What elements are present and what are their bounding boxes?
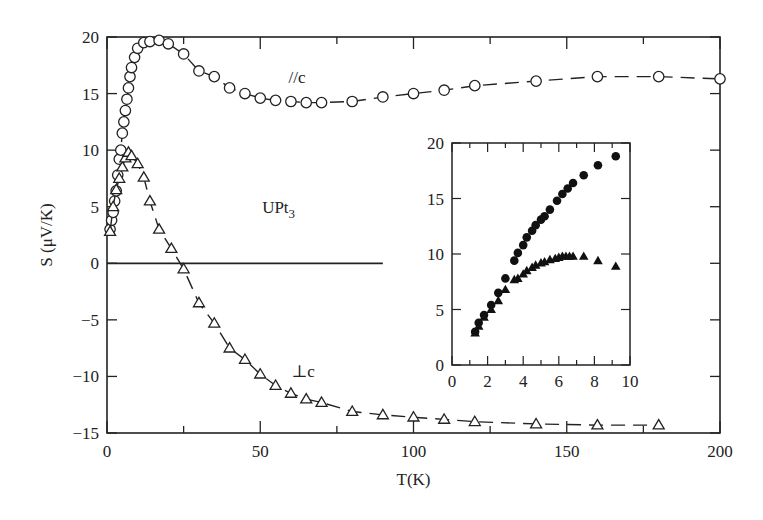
data-point xyxy=(594,161,603,170)
data-point xyxy=(316,97,326,107)
y-tick-label: −15 xyxy=(72,424,99,443)
data-point xyxy=(209,71,219,81)
data-point xyxy=(178,263,189,272)
inset-x-tick-label: 2 xyxy=(483,372,492,391)
inset-x-tick-label: 10 xyxy=(622,372,639,391)
data-point xyxy=(470,80,480,90)
data-point xyxy=(514,249,523,258)
data-point xyxy=(569,179,578,188)
x-tick-label: 200 xyxy=(707,442,733,461)
inset-y-tick-label: 15 xyxy=(427,190,444,209)
data-point xyxy=(270,95,280,105)
data-point xyxy=(301,394,312,403)
inset-y-tick-label: 5 xyxy=(436,301,445,320)
y-tick-label: 5 xyxy=(91,198,100,217)
data-point xyxy=(166,243,177,252)
data-point xyxy=(193,297,204,306)
y-tick-label: 20 xyxy=(82,28,99,47)
data-point xyxy=(553,196,562,205)
y-tick-label: 10 xyxy=(82,141,99,160)
data-point xyxy=(239,354,250,363)
data-point xyxy=(122,94,132,104)
data-point xyxy=(611,152,620,161)
data-point xyxy=(546,205,555,214)
chart-canvas: 050100150200−15−10−505101520//c⊥cUPt3T(K… xyxy=(0,0,763,520)
data-point xyxy=(240,88,250,98)
inset-y-tick-label: 10 xyxy=(427,245,444,264)
y-tick-label: −10 xyxy=(72,367,99,386)
inset-y-tick-label: 0 xyxy=(436,356,445,375)
x-tick-label: 50 xyxy=(252,442,269,461)
y-tick-label: 0 xyxy=(91,254,100,273)
data-point xyxy=(592,420,603,429)
data-point xyxy=(163,39,173,49)
data-point xyxy=(531,76,541,86)
data-point xyxy=(592,71,602,81)
data-point xyxy=(144,196,155,205)
data-point xyxy=(715,74,725,84)
data-point xyxy=(138,172,149,181)
series-parallel-c xyxy=(105,35,725,234)
data-point xyxy=(522,233,531,242)
inset-plot xyxy=(452,143,630,365)
data-point xyxy=(286,96,296,106)
data-point xyxy=(408,412,419,421)
data-point xyxy=(347,96,357,106)
data-point xyxy=(126,62,136,72)
data-point xyxy=(224,343,235,352)
y-axis-label: S (μV/K) xyxy=(37,203,56,266)
data-point xyxy=(408,88,418,98)
data-point xyxy=(501,274,510,283)
inset-x-tick-label: 0 xyxy=(448,372,457,391)
compound-label: UPt3 xyxy=(262,198,295,221)
x-tick-label: 0 xyxy=(103,442,112,461)
y-tick-label: −5 xyxy=(81,311,99,330)
x-tick-label: 150 xyxy=(554,442,580,461)
data-point xyxy=(378,92,388,102)
data-point xyxy=(154,224,165,233)
x-axis-label: T(K) xyxy=(397,470,431,489)
inset-x-tick-label: 6 xyxy=(555,372,564,391)
data-point xyxy=(654,71,664,81)
data-point xyxy=(119,117,129,127)
data-point xyxy=(510,256,519,265)
data-point xyxy=(519,241,528,250)
data-point xyxy=(439,85,449,95)
data-point xyxy=(120,105,130,115)
data-point xyxy=(117,128,127,138)
data-point xyxy=(270,380,281,389)
data-point xyxy=(255,93,265,103)
data-point xyxy=(123,83,133,93)
inset-y-tick-label: 20 xyxy=(427,134,444,153)
y-tick-label: 15 xyxy=(82,85,99,104)
data-point xyxy=(540,212,549,221)
x-tick-label: 100 xyxy=(401,442,427,461)
inset-x-tick-label: 8 xyxy=(590,372,599,391)
data-point xyxy=(301,97,311,107)
data-point xyxy=(178,49,188,59)
data-point xyxy=(579,171,588,180)
data-point xyxy=(194,66,204,76)
data-point xyxy=(653,420,664,429)
inset-x-tick-label: 4 xyxy=(519,372,528,391)
data-point xyxy=(285,388,296,397)
data-point xyxy=(224,83,234,93)
annotation-parallel-c: //c xyxy=(289,68,306,87)
annotation-perp-c: ⊥c xyxy=(291,362,315,381)
